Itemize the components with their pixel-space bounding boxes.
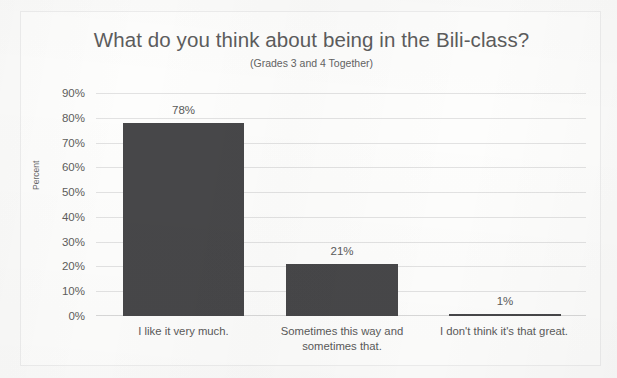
chart-subtitle: (Grades 3 and 4 Together) [21,57,602,69]
x-tick-label: I don't think it's that great. [422,324,586,339]
bar[interactable] [286,264,398,316]
y-tick-label: 50% [62,186,85,198]
y-tick-label: 90% [62,87,85,99]
y-tick-label: 80% [62,112,85,124]
bar-value-label: 1% [449,295,561,307]
chart-title: What do you think about being in the Bil… [21,28,602,52]
bars-layer: 78% 21% 1% [96,93,586,316]
y-tick-label: 0% [68,310,85,322]
chart-container: What do you think about being in the Bil… [20,11,601,366]
y-axis-tick-labels: 90% 80% 70% 60% 50% 40% 30% 20% 10% 0% [21,93,91,316]
x-tick-label: Sometimes this way and sometimes that. [268,324,416,354]
bar-value-label: 21% [286,245,398,257]
bar-value-label: 78% [123,104,244,116]
x-tick-label: I like it very much. [106,324,261,339]
bar[interactable] [449,314,561,317]
y-tick-label: 20% [62,260,85,272]
y-tick-label: 40% [62,211,85,223]
bar[interactable] [123,123,244,316]
y-tick-label: 70% [62,137,85,149]
y-tick-label: 30% [62,236,85,248]
y-tick-label: 10% [62,285,85,297]
y-tick-label: 60% [62,161,85,173]
